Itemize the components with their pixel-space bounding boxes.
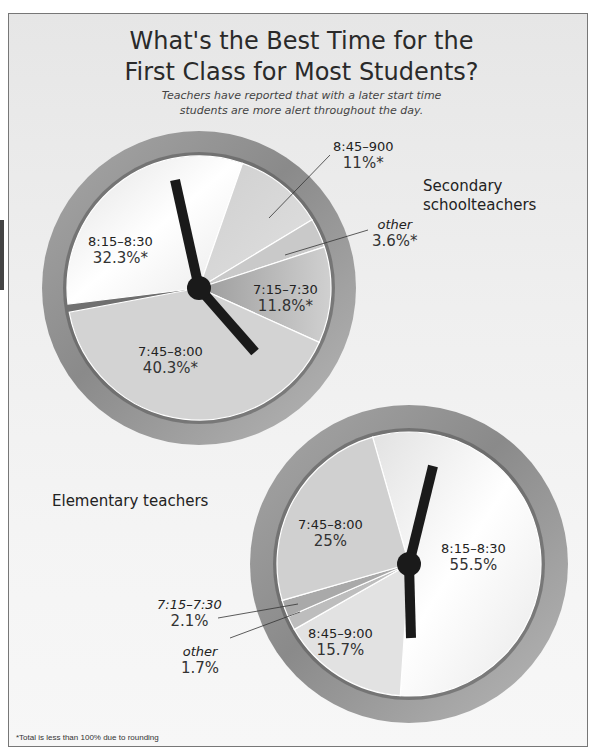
slice-time: 8:45–9:00 [308, 626, 373, 642]
footnote: *Total is less than 100% due to rounding [16, 733, 159, 742]
slice-value: 3.6%* [372, 233, 418, 250]
slice-time: 8:15–8:30 [88, 234, 153, 250]
label-elementary-845: 8:45–9:00 15.7% [308, 626, 373, 659]
slice-time: 7:15–7:30 [253, 282, 318, 298]
slice-value: 2.1% [157, 613, 222, 630]
clock-pie-charts [0, 0, 603, 755]
label-secondary-845: 8:45–900 11%* [333, 139, 394, 172]
label-elementary-other: other 1.7% [181, 644, 219, 677]
slice-value: 25% [298, 533, 363, 550]
slice-value: 55.5% [441, 557, 506, 574]
slice-value: 40.3%* [138, 360, 203, 377]
slice-value: 15.7% [308, 642, 373, 659]
label-elementary-745: 7:45–8:00 25% [298, 517, 363, 550]
elementary-clock [218, 405, 568, 723]
label-elementary-715: 7:15–7:30 2.1% [157, 597, 222, 630]
slice-time: other [181, 644, 219, 660]
group-title-line-1: Secondary [423, 177, 536, 196]
clock-hub [187, 276, 211, 300]
slice-time: 7:45–8:00 [298, 517, 363, 533]
slice-value: 11.8%* [253, 298, 318, 315]
secondary-clock [42, 131, 368, 445]
label-secondary-715: 7:15–7:30 11.8%* [253, 282, 318, 315]
label-secondary-745: 7:45–8:00 40.3%* [138, 344, 203, 377]
secondary-group-title: Secondary schoolteachers [423, 177, 536, 215]
slice-value: 11%* [333, 155, 394, 172]
slice-time: other [372, 217, 418, 233]
label-secondary-other: other 3.6%* [372, 217, 418, 250]
slice-time: 8:45–900 [333, 139, 394, 155]
clock-hub [397, 552, 421, 576]
slice-value: 32.3%* [88, 250, 153, 267]
label-elementary-815: 8:15–8:30 55.5% [441, 541, 506, 574]
slice-time: 8:15–8:30 [441, 541, 506, 557]
group-title-line-2: schoolteachers [423, 196, 536, 215]
label-secondary-815: 8:15–8:30 32.3%* [88, 234, 153, 267]
slice-time: 7:15–7:30 [157, 597, 222, 613]
elementary-group-title: Elementary teachers [52, 492, 208, 511]
slice-time: 7:45–8:00 [138, 344, 203, 360]
slice-value: 1.7% [181, 660, 219, 677]
